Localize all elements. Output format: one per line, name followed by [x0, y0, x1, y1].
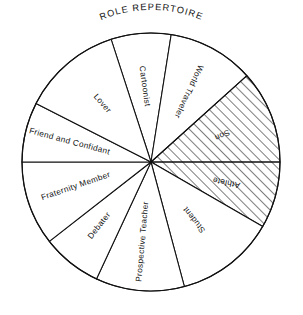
chart-title: ROLE REPERTOIRE	[98, 2, 205, 22]
role-repertoire-pie-chart: CartoonistWorld TravelerSonAthleteStuden…	[0, 0, 303, 315]
pie-slices	[22, 33, 280, 291]
pie-chart-svg: CartoonistWorld TravelerSonAthleteStuden…	[0, 0, 303, 315]
